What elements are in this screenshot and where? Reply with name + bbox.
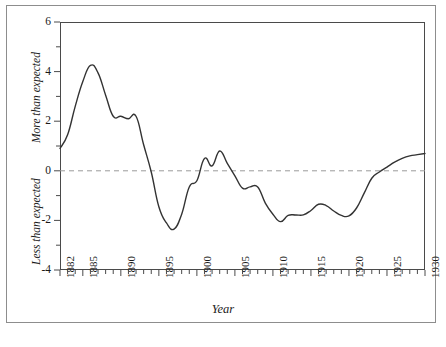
data-series-line (60, 65, 425, 230)
y-tick-label: -4 (0, 264, 51, 275)
x-axis-title: Year (0, 302, 446, 317)
y-tick-label: 0 (0, 165, 51, 176)
y-tick-label: 4 (0, 66, 51, 77)
chart-figure: More than expected Less than expected 64… (0, 0, 446, 347)
y-tick-label: 2 (0, 115, 51, 126)
y-tick-label: -2 (0, 214, 51, 225)
y-tick-label: 6 (0, 16, 51, 27)
chart-plot-svg (60, 22, 425, 270)
axis-tick-marks (54, 22, 425, 276)
x-tick-label: 1930 (429, 256, 441, 278)
